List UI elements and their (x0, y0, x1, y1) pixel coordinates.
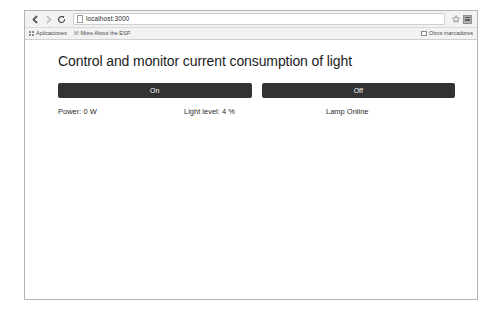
lamp-state-status-text: Lamp Online (326, 107, 369, 117)
other-bookmarks-button[interactable]: Otros marcadores (421, 30, 473, 37)
lamp-control-button-row: On Off (58, 83, 455, 98)
apps-grid-icon (29, 31, 34, 36)
page-document-icon (77, 15, 83, 23)
lamp-off-button[interactable]: Off (262, 83, 456, 98)
bookmark-label: More About the ESP (80, 30, 130, 37)
bookmark-label: Aplicaciones (36, 30, 67, 37)
reload-icon[interactable] (55, 13, 68, 26)
browser-toolbar: localhost:3000 (25, 11, 477, 28)
lamp-on-button[interactable]: On (58, 83, 252, 98)
bookmarks-bar: Aplicaciones M More About the ESP Otros … (25, 28, 477, 40)
chrome-menu-icon[interactable] (462, 14, 473, 25)
bookmark-more-about-the-esp[interactable]: M More About the ESP (74, 30, 130, 37)
forward-arrow-icon[interactable] (42, 13, 55, 26)
folder-icon (421, 31, 427, 36)
other-bookmarks-label: Otros marcadores (429, 30, 473, 37)
light-level-status-text: Light level: 4 % (184, 107, 326, 117)
page-viewport: Control and monitor current consumption … (25, 40, 477, 299)
power-status-text: Power: 0 W (58, 107, 184, 117)
back-arrow-icon[interactable] (29, 13, 42, 26)
bookmark-m-icon: M (74, 30, 79, 37)
url-bar[interactable]: localhost:3000 (73, 13, 445, 25)
menu-lines (463, 15, 472, 24)
page-title: Control and monitor current consumption … (58, 53, 455, 70)
url-text: localhost:3000 (86, 15, 129, 23)
status-row: Power: 0 W Light level: 4 % Lamp Online (58, 107, 455, 117)
browser-window: localhost:3000 Aplicaciones M More About… (24, 10, 478, 300)
bookmark-star-icon[interactable] (450, 14, 461, 25)
bookmark-aplicaciones[interactable]: Aplicaciones (29, 30, 67, 37)
